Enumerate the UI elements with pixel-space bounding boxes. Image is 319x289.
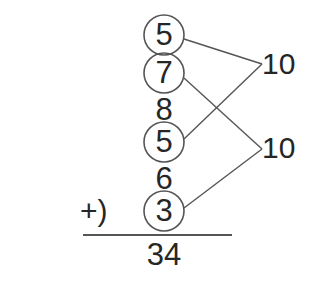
- addend-digit-3: 5: [144, 122, 184, 162]
- plus-operator: +): [80, 191, 124, 231]
- addend-digit-1: 7: [144, 53, 184, 93]
- addition-worksheet: 5 7 8 5 6 3 +) 10 10 34: [0, 0, 319, 289]
- addend-digit-5: 3: [144, 191, 184, 231]
- bond-label-1: 10: [262, 131, 316, 165]
- bond-connector-b2: [184, 149, 262, 208]
- sum-total: 34: [134, 238, 194, 272]
- bond-connector-a1: [184, 39, 262, 64]
- bond-connector-b1: [184, 78, 262, 149]
- bond-connector-a2: [184, 64, 262, 139]
- bond-label-0: 10: [262, 47, 316, 81]
- addend-digit-0: 5: [144, 15, 184, 55]
